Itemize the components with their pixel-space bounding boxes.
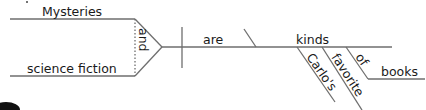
word-books: books bbox=[381, 64, 418, 79]
corner-mark bbox=[26, 1, 28, 3]
word-kinds: kinds bbox=[296, 32, 329, 47]
corner-blob bbox=[0, 102, 20, 110]
word-and: and bbox=[136, 28, 151, 52]
word-mysteries: Mysteries bbox=[42, 4, 102, 19]
word-of: of bbox=[353, 50, 373, 69]
word-science-fiction: science fiction bbox=[27, 61, 117, 76]
word-are: are bbox=[203, 32, 224, 47]
sentence-diagram: Mysteries science fiction and are kinds … bbox=[0, 0, 426, 110]
predicate-noun-divider bbox=[244, 29, 256, 47]
